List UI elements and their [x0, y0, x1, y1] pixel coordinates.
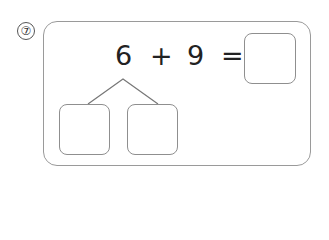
decomposition-left-box[interactable] — [59, 104, 110, 155]
decomposition-right-box[interactable] — [127, 104, 178, 155]
